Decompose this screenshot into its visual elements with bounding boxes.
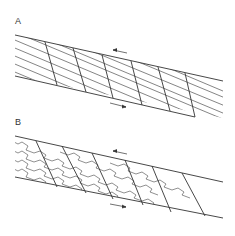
panel-a <box>10 24 230 162</box>
shear-arrow-bottom-b <box>110 204 126 208</box>
panel-b <box>10 136 223 236</box>
shear-arrow-bottom-a <box>110 103 126 108</box>
shear-arrow-top-b <box>113 150 127 155</box>
shear-arrow-top-a <box>113 49 127 54</box>
layering-a <box>10 24 230 162</box>
shear-zone-diagram <box>0 0 235 236</box>
zone-boundary-top <box>15 35 223 81</box>
zone-boundary-bottom <box>15 177 223 218</box>
